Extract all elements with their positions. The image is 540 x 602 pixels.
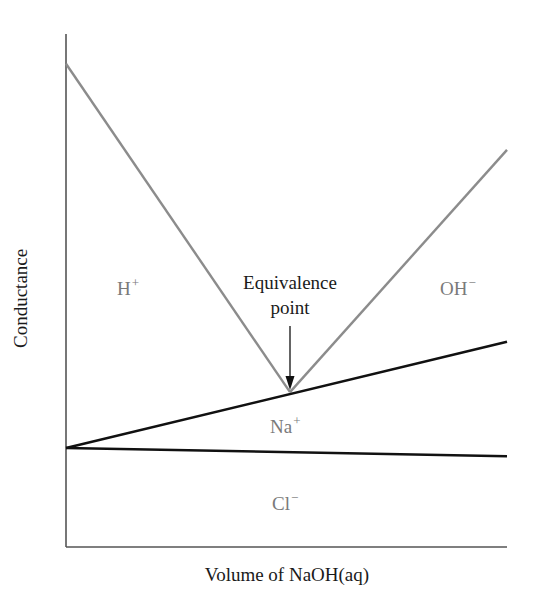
equivalence-arrow [286, 326, 295, 390]
cl-ion-label: Cl− [272, 494, 298, 513]
na-ion-label: Na+ [270, 417, 301, 436]
na-ion-symbol: Na [270, 416, 292, 437]
series-line-hplus [66, 64, 290, 392]
x-axis-label: Volume of NaOH(aq) [205, 565, 369, 584]
series-line-ohminus [290, 150, 507, 392]
y-axis-label: Conductance [11, 249, 30, 348]
equivalence-label-line2: point [243, 298, 337, 317]
oh-ion-label: OH− [440, 279, 476, 298]
equivalence-label-line1: Equivalence [243, 273, 337, 292]
series-line-clminus [66, 448, 507, 456]
h-ion-symbol: H [117, 278, 131, 299]
cl-ion-charge: − [291, 490, 298, 505]
equivalence-label: Equivalence point [243, 273, 337, 317]
h-ion-label: H+ [117, 279, 139, 298]
series-lines [66, 64, 507, 456]
oh-ion-charge: − [468, 275, 475, 290]
cl-ion-symbol: Cl [272, 493, 290, 514]
h-ion-charge: + [132, 275, 139, 290]
na-ion-charge: + [293, 413, 300, 428]
oh-ion-symbol: OH [440, 278, 467, 299]
